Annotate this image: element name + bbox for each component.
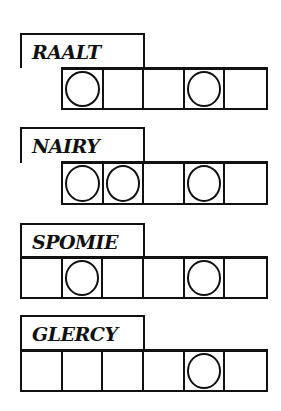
answer-cells xyxy=(61,161,268,205)
answer-cells xyxy=(61,67,268,110)
circle-marker-icon xyxy=(187,353,222,389)
circle-marker-icon xyxy=(106,165,141,202)
answer-cell[interactable] xyxy=(225,259,266,297)
answer-cell[interactable] xyxy=(185,352,226,390)
answer-cell[interactable] xyxy=(63,352,104,390)
answer-cell[interactable] xyxy=(144,259,185,297)
scrambled-word-box: NAIRY xyxy=(20,127,145,163)
answer-cell[interactable] xyxy=(185,259,226,297)
answer-cell[interactable] xyxy=(22,259,63,297)
circle-marker-icon xyxy=(187,165,222,202)
answer-cell[interactable] xyxy=(185,70,226,108)
answer-cell[interactable] xyxy=(63,259,104,297)
circle-marker-icon xyxy=(65,165,100,202)
answer-cell[interactable] xyxy=(63,70,104,108)
answer-cell[interactable] xyxy=(185,164,226,203)
answer-cell[interactable] xyxy=(225,70,266,108)
circle-marker-icon xyxy=(187,71,222,107)
scrambled-word: SPOMIE xyxy=(32,231,118,253)
answer-cell[interactable] xyxy=(104,164,145,203)
answer-cell[interactable] xyxy=(144,70,185,108)
answer-cell[interactable] xyxy=(144,352,185,390)
answer-cell[interactable] xyxy=(63,164,104,203)
circle-marker-icon xyxy=(65,71,100,107)
answer-cells xyxy=(20,349,268,392)
answer-cell[interactable] xyxy=(103,352,144,390)
answer-cell[interactable] xyxy=(225,352,266,390)
answer-cell[interactable] xyxy=(144,164,185,203)
answer-cells xyxy=(20,256,268,299)
scrambled-word-box: GLERCY xyxy=(20,315,145,351)
circle-marker-icon xyxy=(65,260,100,296)
scrambled-word: NAIRY xyxy=(32,135,99,157)
word-jumble-puzzle: RAALT NAIRY SPOMIE xyxy=(0,0,281,411)
scrambled-word-box: SPOMIE xyxy=(20,223,145,258)
answer-cell[interactable] xyxy=(225,164,266,203)
circle-marker-icon xyxy=(187,260,222,296)
answer-cell[interactable] xyxy=(22,352,63,390)
answer-cell[interactable] xyxy=(103,259,144,297)
scrambled-word: GLERCY xyxy=(32,323,118,345)
scrambled-word-box: RAALT xyxy=(20,33,145,68)
answer-cell[interactable] xyxy=(104,70,145,108)
scrambled-word: RAALT xyxy=(32,41,101,63)
